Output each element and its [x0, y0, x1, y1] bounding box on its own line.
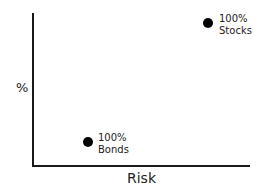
stocks-percent: 100%: [219, 13, 252, 25]
point-label-stocks: 100% Stocks: [219, 13, 252, 37]
data-point-bonds: [83, 137, 93, 147]
risk-return-chart: % Risk 100% Bonds 100% Stocks: [0, 0, 265, 194]
y-axis: [32, 13, 34, 167]
stocks-name: Stocks: [219, 25, 252, 37]
bonds-percent: 100%: [98, 132, 129, 144]
point-label-bonds: 100% Bonds: [98, 132, 129, 156]
data-point-stocks: [203, 18, 213, 28]
x-axis: [32, 165, 250, 167]
y-axis-label: %: [16, 80, 28, 95]
bonds-name: Bonds: [98, 144, 129, 156]
x-axis-label: Risk: [127, 170, 156, 186]
